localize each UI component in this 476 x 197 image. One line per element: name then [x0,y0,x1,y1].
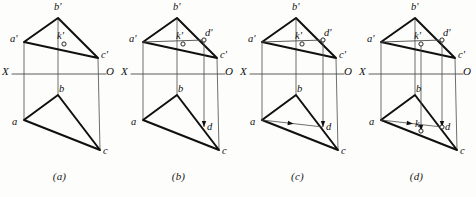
point-marker-k-prime [419,42,423,46]
panel-b-label-a-prime: a' [129,34,137,45]
panel-d-label-c-prime: c' [458,50,465,61]
panel-d-caption: (d) [357,170,476,182]
panel-a-label-k-prime: k' [57,31,64,42]
panel-b: a'b'c'k'd'abcdXO(b) [119,0,238,197]
panel-c-label-a: a [250,117,255,128]
panel-b-caption: (b) [119,170,238,182]
panel-c-label-d: d [326,122,331,133]
aux-line-a-prime-d-prime [262,40,323,42]
arrow-d-prime-to-d [440,40,444,127]
panel-b-label-d-prime: d' [205,28,213,39]
panel-c-label-b-prime: b' [292,2,300,13]
panel-c: a'b'c'k'd'abcdXO(c) [238,0,357,197]
panel-a-label-axis-x: X [2,66,9,77]
aux-line-a-prime-d-prime [143,40,204,42]
panel-a-label-b-prime: b' [54,2,62,13]
arrow-a-to-d-head [288,121,294,125]
panel-b-label-k-prime: k' [176,31,183,42]
point-marker-d-prime [202,38,206,42]
point-marker-k [419,129,423,133]
point-marker-d-prime [440,38,444,42]
point-marker-d-prime [321,38,325,42]
arrow-d-prime-to-d-head [321,121,325,127]
panel-a-label-a-prime: a' [10,34,18,45]
panel-d-label-b-prime: b' [411,2,419,13]
panel-a: a'b'c'k'abcXO(a) [0,0,119,197]
panel-d-label-axis-x: X [359,66,366,77]
projector-c [455,58,457,150]
panel-b-label-b: b [178,84,183,95]
panel-d: a'b'c'k'd'abcdkXO(d) [357,0,476,197]
panel-b-label-axis-x: X [121,66,128,77]
panel-d-label-a-prime: a' [367,34,375,45]
panel-b-label-c: c [222,146,227,157]
arrow-d-prime-to-d [202,40,206,127]
panel-c-label-a-prime: a' [248,34,256,45]
panel-a-label-a: a [12,117,17,128]
panel-c-label-b: b [297,84,302,95]
arrow-d-prime-to-d-head [202,121,206,127]
point-marker-k-prime [181,42,185,46]
projector-c [217,58,219,150]
panel-b-label-c-prime: c' [220,50,227,61]
panel-a-label-c-prime: c' [101,50,108,61]
panel-c-label-c: c [341,146,346,157]
panel-a-label-c: c [103,146,108,157]
point-marker-k-prime [300,42,304,46]
panel-c-label-k-prime: k' [295,31,302,42]
panel-b-label-b-prime: b' [173,2,181,13]
panel-d-label-a: a [369,117,374,128]
panel-c-label-d-prime: d' [324,28,332,39]
projector-c [336,58,338,150]
panel-d-label-d-prime: d' [443,28,451,39]
panel-c-label-axis-x: X [240,66,247,77]
panel-d-label-d: d [445,122,450,133]
panel-a-caption: (a) [0,170,119,182]
panel-a-label-b: b [59,84,64,95]
point-marker-d [440,125,444,129]
panel-d-label-b: b [416,84,421,95]
aux-line-a-prime-d-prime [381,40,442,42]
projector-c [98,58,100,150]
panel-d-label-axis-o: O [463,66,471,77]
panel-d-label-c: c [460,146,465,157]
panel-b-label-a: a [131,117,136,128]
panel-c-label-axis-o: O [344,66,352,77]
panel-c-caption: (c) [238,170,357,182]
triangle-horizontal-abc [24,95,100,150]
point-marker-k-prime [62,42,66,46]
figure-canvas: a'b'c'k'abcXO(a)a'b'c'k'd'abcdXO(b)a'b'c… [0,0,476,197]
panel-b-label-axis-o: O [225,66,233,77]
panel-c-label-c-prime: c' [339,50,346,61]
arrow-a-to-d-head [407,121,413,125]
panel-d-label-k-prime: k' [414,31,421,42]
panel-a-label-axis-o: O [106,66,114,77]
panel-d-label-k: k [415,119,420,130]
arrow-d-prime-to-d [321,40,325,127]
panel-b-label-d: d [207,122,212,133]
